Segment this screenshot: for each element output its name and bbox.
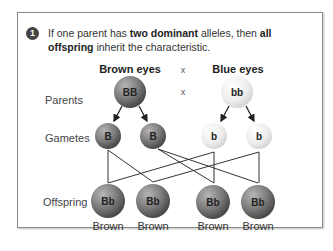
- offspring-genotype: Bb: [251, 197, 264, 208]
- offspring-genotype: Bb: [101, 196, 114, 207]
- parent-bb-recessive: bb: [221, 76, 253, 108]
- offspring-4: Bb: [241, 185, 275, 219]
- gamete-allele: b: [256, 131, 262, 142]
- gamete-1: B: [95, 123, 121, 149]
- offspring-phenotype: Brown: [242, 220, 273, 232]
- gamete-allele: b: [211, 131, 217, 142]
- offspring-3: Bb: [196, 185, 230, 219]
- parent-genotype: BB: [123, 87, 137, 98]
- offspring-genotype: Bb: [206, 197, 219, 208]
- offspring-1: Bb: [91, 184, 125, 218]
- punnett-diagram: BB bb B B b b Bb Bb Bb Bb: [0, 0, 333, 251]
- offspring-phenotype: Brown: [137, 220, 168, 232]
- line-gamete1: [108, 150, 153, 183]
- offspring-phenotype: Brown: [197, 220, 228, 232]
- gamete-allele: B: [104, 131, 111, 142]
- cross-lines: [108, 149, 259, 183]
- gamete-allele: B: [149, 131, 156, 142]
- parent-bb-dominant: BB: [114, 76, 146, 108]
- arrow-bb-to-gamete-1: [114, 106, 122, 121]
- gamete-2: B: [140, 123, 166, 149]
- arrow-bb-small-to-gamete-4: [246, 106, 254, 121]
- gamete-4: b: [246, 123, 272, 149]
- offspring-2: Bb: [136, 184, 170, 218]
- offspring-genotype: Bb: [146, 196, 159, 207]
- parent-genotype: bb: [231, 87, 243, 98]
- gamete-3: b: [201, 123, 227, 149]
- arrow-bb-to-gamete-2: [139, 106, 147, 121]
- offspring-phenotype: Brown: [92, 220, 123, 232]
- arrow-bb-small-to-gamete-3: [221, 106, 229, 121]
- line-gamete3: [108, 152, 214, 183]
